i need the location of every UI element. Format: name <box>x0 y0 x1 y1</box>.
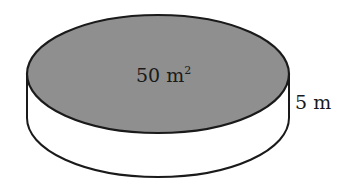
area-label-superscript: 2 <box>184 64 191 77</box>
cylinder-diagram: 50 m2 5 m <box>0 0 340 188</box>
area-label: 50 m2 <box>136 64 191 86</box>
height-label: 5 m <box>295 91 331 113</box>
